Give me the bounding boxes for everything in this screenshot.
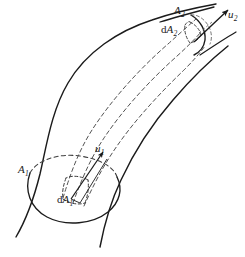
label-inlet-element-subscript: 1 [70,199,74,208]
label-outlet-element-subscript: 2 [174,29,178,38]
label-outlet-area-subscript: 2 [181,10,185,19]
outer-boundary-right [100,46,228,247]
outlet-velocity-shaft [194,10,228,42]
streamline-2 [73,32,201,203]
label-inlet-area: A1 [18,164,28,175]
stream-tube-drawing [0,0,245,257]
stream-tube-figure: A1 A2 dA1 dA2 u1 u2 [0,0,245,257]
label-inlet-element: dA1 [57,194,73,205]
label-inlet-velocity-subscript: 1 [101,148,105,157]
inlet-ellipse-near-half [28,173,120,223]
label-inlet-area-subscript: 1 [25,169,29,178]
label-outlet-velocity: u2 [228,9,237,20]
label-outlet-velocity-symbol: u [228,8,234,20]
streamline-3 [84,46,205,206]
label-inlet-element-symbol: A [63,193,70,205]
inlet-velocity-vector [71,152,107,203]
label-outlet-area-symbol: A [174,4,181,16]
label-outlet-velocity-subscript: 2 [234,14,238,23]
outlet-velocity-vector [194,10,228,42]
label-outlet-element-symbol: A [167,23,174,35]
label-inlet-velocity-symbol: u [95,142,101,154]
label-inlet-velocity: u1 [95,143,104,154]
outlet-element-patch [185,22,201,43]
label-outlet-element: dA2 [161,24,177,35]
streamlines [63,19,205,206]
label-outlet-area: A2 [174,5,184,16]
streamline-1 [63,19,196,198]
label-inlet-area-symbol: A [18,163,25,175]
